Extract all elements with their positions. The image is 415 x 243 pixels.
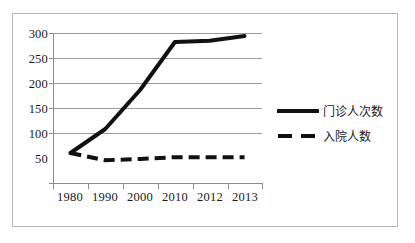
legend-item-inpatient: 入院人数 [277, 123, 397, 148]
chart-figure: 300 250 200 150 100 50 1980 1990 2000 20… [0, 0, 415, 243]
series-line-outpatient [70, 36, 244, 153]
y-tick-label-100: 100 [18, 127, 48, 142]
chart-legend: 门诊人次数 入院人数 [277, 98, 397, 148]
y-tick-label-300: 300 [18, 27, 48, 42]
y-tick-label-150: 150 [18, 102, 48, 117]
x-tick-mark-6 [262, 184, 263, 189]
dashed-line-swatch [277, 130, 319, 142]
legend-item-outpatient: 门诊人次数 [277, 98, 397, 123]
y-tick-label-50: 50 [18, 152, 48, 167]
x-tick-mark-1 [88, 184, 89, 189]
legend-label-inpatient: 入院人数 [323, 127, 371, 144]
legend-label-outpatient: 门诊人次数 [323, 102, 383, 119]
series-plot-svg [53, 33, 262, 183]
x-tick-mark-2 [123, 184, 124, 189]
series-line-inpatient [70, 153, 244, 160]
x-tick-mark-3 [158, 184, 159, 189]
x-tick-mark-5 [228, 184, 229, 189]
x-tick-mark-0 [53, 184, 54, 189]
x-tick-label-2013: 2013 [223, 190, 267, 205]
y-tick-label-200: 200 [18, 77, 48, 92]
y-tick-label-250: 250 [18, 52, 48, 67]
plot-area [53, 33, 262, 183]
y-axis-tick-labels: 300 250 200 150 100 50 [14, 0, 48, 243]
x-tick-mark-4 [193, 184, 194, 189]
solid-line-swatch [277, 105, 319, 117]
